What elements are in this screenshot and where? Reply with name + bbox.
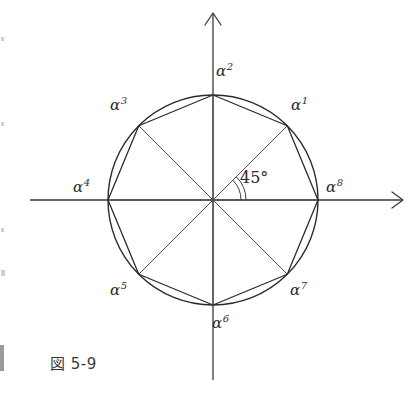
vertex-label-alpha-4-base: α [73,178,83,196]
vertex-label-alpha-6-exponent: 6 [223,313,229,324]
vertex-label-alpha-1: α1 [291,98,308,113]
vertex-label-alpha-5: α5 [110,283,127,298]
figure-5-9: α1 α2 α3 α4 α5 α6 α7 α8 45° 図 5-9 [0,0,419,396]
vertex-label-alpha-6: α6 [212,316,229,331]
vertex-label-alpha-3-exponent: 3 [121,95,127,106]
vertex-label-alpha-5-exponent: 5 [121,280,127,291]
scan-artifact-left-tick-2 [1,122,4,126]
vertex-label-alpha-8-base: α [326,178,336,196]
figure-caption: 図 5-9 [50,352,97,373]
radii-group [108,95,318,305]
vertex-label-alpha-8-exponent: 8 [337,177,343,188]
radius-to-vertex-1 [213,126,287,200]
vertex-label-alpha-7-base: α [290,281,300,299]
vertex-label-alpha-2-base: α [216,62,226,80]
vertex-label-alpha-7: α7 [290,283,307,298]
vertex-label-alpha-1-base: α [291,96,301,114]
vertex-label-alpha-4: α4 [73,180,90,195]
vertex-label-alpha-7-exponent: 7 [301,280,307,291]
vertex-label-alpha-1-exponent: 1 [302,95,308,106]
radius-to-vertex-5 [139,200,213,274]
scan-artifact-left-tick-1 [1,37,4,41]
angle-label-45-degrees: 45° [240,170,268,186]
figure-drawing [0,0,419,396]
radius-to-vertex-3 [139,126,213,200]
scan-artifact-left-tick-4 [1,270,5,276]
scan-artifact-left-bar [0,345,4,371]
scan-artifact-left-tick-3 [1,228,4,232]
vertex-label-alpha-6-base: α [212,314,222,332]
vertex-label-alpha-3: α3 [110,98,127,113]
vertex-label-alpha-8: α8 [326,180,343,195]
vertex-label-alpha-2-exponent: 2 [227,61,233,72]
vertex-label-alpha-5-base: α [110,281,120,299]
vertex-label-alpha-2: α2 [216,64,233,79]
vertex-label-alpha-4-exponent: 4 [84,177,90,188]
radius-to-vertex-7 [213,200,287,274]
vertex-label-alpha-3-base: α [110,96,120,114]
